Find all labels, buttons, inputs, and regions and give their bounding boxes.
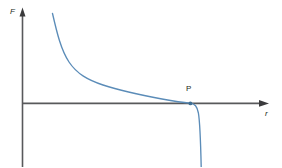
right-arrow-icon [259,100,269,107]
force-curve [53,14,202,168]
point-P-marker [189,102,193,106]
plot-canvas [0,0,282,167]
y-axis-label: F [10,8,15,16]
x-axis-label: r [265,110,268,118]
up-arrow-icon [20,8,26,17]
point-P-label: P [186,85,191,93]
force-vs-separation-figure: F r P [0,0,282,167]
